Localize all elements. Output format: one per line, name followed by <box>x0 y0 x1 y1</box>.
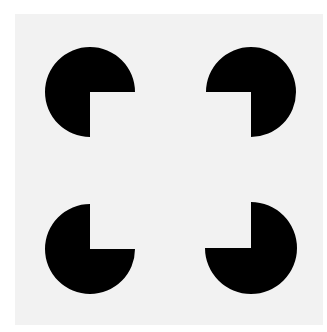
kanizsa-figure <box>0 0 327 332</box>
